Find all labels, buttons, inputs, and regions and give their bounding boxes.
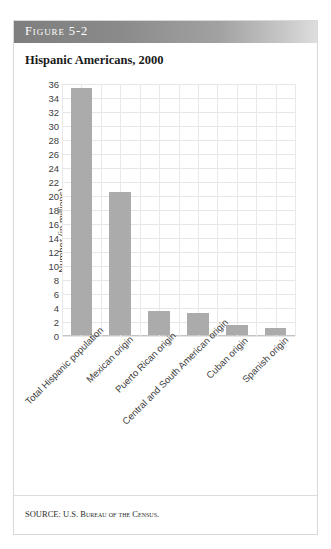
bar	[109, 192, 131, 335]
y-axis-tick-label: 34	[48, 93, 59, 104]
bar	[148, 311, 170, 336]
y-axis-tick-label: 30	[48, 121, 59, 132]
y-axis-tick-label: 24	[48, 163, 59, 174]
y-axis-tick-label: 20	[48, 191, 59, 202]
y-axis-tick-label: 22	[48, 177, 59, 188]
source-note: SOURCE: U.S. Bureau of the Census.	[25, 509, 159, 519]
y-axis-tick-label: 8	[54, 275, 59, 286]
gridline-vertical	[276, 84, 277, 336]
plot-region	[62, 84, 295, 336]
gridline-vertical	[140, 84, 141, 336]
gridline-vertical	[62, 84, 63, 336]
plot-wrapper: 363432302826242220181614121086420	[62, 84, 295, 336]
y-axis-tick-label: 36	[48, 79, 59, 90]
x-axis-labels: Total Hispanic populationMexican originP…	[62, 339, 295, 469]
y-axis-tick-label: 28	[48, 135, 59, 146]
y-axis-tick-label: 0	[54, 331, 59, 342]
gridline-vertical	[256, 84, 257, 336]
figure-number-label: Figure 5-2	[25, 24, 88, 39]
y-axis-tick-label: 16	[48, 219, 59, 230]
gridline-vertical	[101, 84, 102, 336]
gridline-vertical	[179, 84, 180, 336]
y-axis-tick-label: 4	[54, 303, 59, 314]
y-axis-tick-label: 12	[48, 247, 59, 258]
y-axis-tick-label: 26	[48, 149, 59, 160]
source-divider	[14, 495, 317, 496]
y-axis-tick-label: 10	[48, 261, 59, 272]
y-axis-ticks: 363432302826242220181614121086420	[35, 84, 59, 336]
chart-title: Hispanic Americans, 2000	[25, 53, 164, 68]
y-axis-tick-label: 2	[54, 317, 59, 328]
bar	[265, 328, 287, 335]
y-axis-tick-label: 18	[48, 205, 59, 216]
chart-area: Number (in millions) 3634323028262422201…	[14, 73, 319, 483]
y-axis-tick-label: 6	[54, 289, 59, 300]
bar	[226, 325, 248, 336]
gridline-vertical	[159, 84, 160, 336]
figure-card: Figure 5-2 Hispanic Americans, 2000 Numb…	[13, 20, 318, 535]
y-axis-tick-label: 14	[48, 233, 59, 244]
source-text: SOURCE: U.S. Bureau of the Census.	[25, 509, 159, 519]
gridline-vertical	[217, 84, 218, 336]
gridline-vertical	[237, 84, 238, 336]
gridline-vertical	[198, 84, 199, 336]
figure-header-bar: Figure 5-2	[14, 21, 317, 43]
y-axis-tick-label: 32	[48, 107, 59, 118]
bar	[71, 88, 93, 335]
gridline-vertical	[295, 84, 296, 336]
